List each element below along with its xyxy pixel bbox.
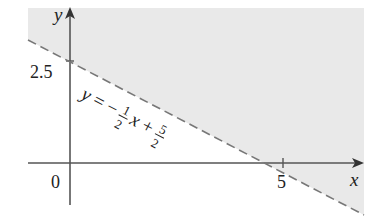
shaded-region [28,8,364,215]
y-axis-label: y [52,4,63,25]
inequality-graph: y x 0 5 2.5 y = − 1 2 x + 5 2 [0,0,387,220]
svg-text:2: 2 [149,135,162,151]
origin-label: 0 [51,172,60,192]
svg-text:2: 2 [112,116,125,132]
x-axis-label: x [349,169,359,190]
x-tick-label: 5 [277,172,286,192]
y-tick-label: 2.5 [30,62,53,82]
